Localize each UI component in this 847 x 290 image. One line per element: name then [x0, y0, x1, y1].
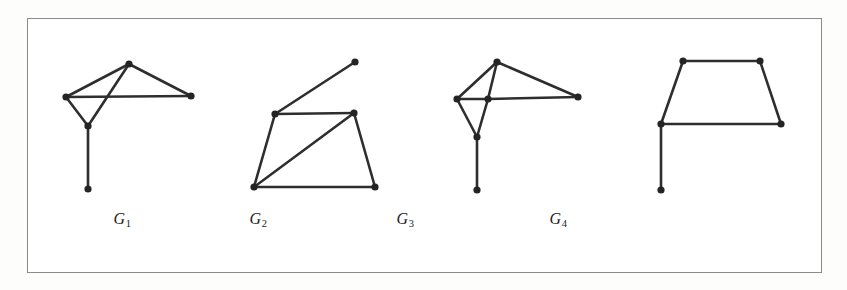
- graph-vertex: [250, 183, 257, 190]
- graph-g3: [453, 58, 581, 193]
- graph-g4: [657, 57, 784, 193]
- graph-edge: [66, 97, 88, 126]
- graphs-layer: [62, 57, 784, 193]
- caption-base: G: [549, 210, 561, 227]
- graph-edge: [66, 96, 191, 97]
- graph-vertex: [350, 109, 357, 116]
- graph-edge: [354, 113, 375, 187]
- graph-vertex: [453, 95, 460, 102]
- graph-diagram-canvas: [0, 0, 847, 290]
- graph-vertex: [484, 95, 491, 102]
- graph-edge: [488, 97, 578, 99]
- caption-subscript: 1: [126, 218, 131, 229]
- graph-vertex: [125, 60, 132, 67]
- graph-edge: [275, 113, 354, 114]
- graph-vertex: [62, 93, 69, 100]
- graph-vertex: [351, 58, 358, 65]
- graph-vertex: [473, 186, 480, 193]
- graph-vertex: [473, 133, 480, 140]
- caption-subscript: 3: [409, 218, 414, 229]
- graph-vertex: [574, 93, 581, 100]
- graph-edge: [457, 62, 497, 99]
- graph-vertex: [271, 110, 278, 117]
- graph-vertex: [657, 186, 664, 193]
- graph-g2: [250, 58, 378, 190]
- graph-caption-g4: G4: [549, 210, 566, 228]
- graph-edge: [275, 62, 355, 114]
- graph-caption-g3: G3: [396, 210, 413, 228]
- graph-edge: [254, 113, 354, 187]
- caption-subscript: 2: [262, 218, 267, 229]
- figure-root: G1G2G3G4: [0, 0, 847, 290]
- graph-vertex: [84, 122, 91, 129]
- graph-vertex: [187, 92, 194, 99]
- caption-subscript: 4: [562, 218, 567, 229]
- graph-caption-g2: G2: [249, 210, 266, 228]
- graph-edge: [497, 62, 578, 97]
- graph-edge: [477, 99, 488, 137]
- graph-vertex: [679, 57, 686, 64]
- caption-base: G: [396, 210, 408, 227]
- graph-vertex: [371, 183, 378, 190]
- graph-vertex: [657, 120, 664, 127]
- graph-edge: [129, 64, 191, 96]
- caption-base: G: [249, 210, 261, 227]
- graph-g1: [62, 60, 194, 192]
- graph-vertex: [756, 57, 763, 64]
- graph-caption-g1: G1: [113, 210, 130, 228]
- graph-edge: [254, 114, 275, 187]
- graph-vertex: [493, 58, 500, 65]
- graph-vertex: [84, 185, 91, 192]
- caption-base: G: [113, 210, 125, 227]
- graph-vertex: [777, 120, 784, 127]
- graph-edge: [661, 61, 683, 124]
- graph-edge: [760, 61, 781, 124]
- graph-edge: [457, 99, 477, 137]
